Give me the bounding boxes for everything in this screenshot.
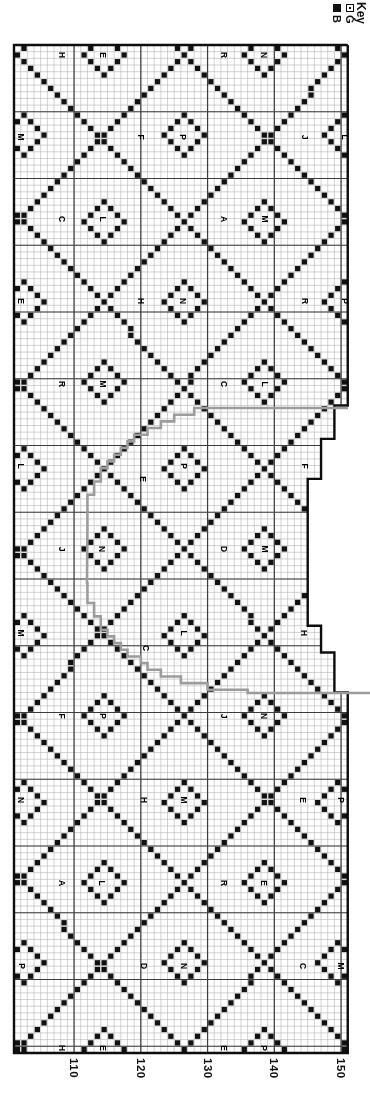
motif-color-letter-p: P [99,713,107,719]
key-title: Key [354,2,368,24]
motif-color-letter-p: P [260,1045,268,1051]
ground-color-letter-j: J [301,135,309,140]
ground-color-letter-h: H [140,797,148,803]
ground-color-letter-a: A [58,880,66,886]
ground-color-letter-r: R [58,381,66,387]
motif-color-letter-l: L [98,880,106,885]
row-number-130: 130 [202,1058,214,1079]
motif-color-letter-n: N [179,298,187,304]
motif-color-letter-e: E [99,52,107,58]
motif-color-letter-l: L [261,381,269,386]
ground-color-letter-d: D [140,963,148,969]
motif-color-letter-p: P [337,797,345,803]
motif-color-letter-n: N [260,713,268,719]
ground-color-letter-f: F [137,134,145,139]
row-number-150: 150 [335,1058,347,1079]
ground-color-letter-e: E [299,797,307,803]
ground-color-letter-c: C [299,963,307,969]
ground-color-letter-j: J [220,714,228,719]
chart-grid-canvas [0,0,370,1098]
ground-color-letter-e: E [220,1045,228,1051]
motif-color-letter-m: M [17,629,25,636]
ground-color-letter-f: F [58,713,66,718]
motif-color-letter-p: P [18,963,26,969]
motif-color-letter-n: N [17,797,25,803]
ground-color-letter-c: C [58,216,66,222]
motif-color-letter-l: L [99,216,107,221]
key-entry-ground: G [346,4,354,24]
row-number-140: 140 [268,1058,280,1079]
row-number-120: 120 [135,1058,147,1079]
ground-color-letter-d: D [220,546,228,552]
ground-color-letter-f: F [301,463,309,468]
key-entry-label: B [333,15,341,23]
ground-color-letter-h: H [137,298,145,304]
ground-color-letter-c: C [142,645,150,651]
motif-color-letter-l: L [180,630,188,635]
motif-color-letter-m: M [17,133,25,140]
motif-color-letter-p: P [341,298,349,304]
motif-color-letter-m: M [337,962,345,969]
motif-color-letter-m: M [99,380,107,387]
motif-color-letter-n: N [180,963,188,969]
ground-color-letter-j: J [58,547,66,552]
motif-color-letter-m: M [261,545,269,552]
ground-color-letter-h: H [58,1045,66,1051]
motif-color-letter-n: N [98,546,106,552]
pattern-stitch-icon [333,4,341,12]
motif-color-letter-e: E [99,1045,107,1051]
ground-stitch-icon [346,4,354,12]
key-entry-pattern: B [333,4,341,23]
ground-color-letter-e: E [139,476,147,482]
ground-color-letter-r: R [220,880,228,886]
motif-color-letter-p: P [180,463,188,469]
ground-color-letter-r: R [220,52,228,58]
ground-color-letter-h: H [58,52,66,58]
motif-color-letter-m: M [180,796,188,803]
ground-color-letter-r: R [301,298,309,304]
key-entry-label: G [346,15,354,24]
knitting-chart-page: Key G B HERNMFPJLCLAMEHNRPRMCLLEPFJNDMMC… [0,0,370,1098]
ground-color-letter-h: H [300,630,308,636]
ground-color-letter-c: C [220,381,228,387]
motif-color-letter-e: E [260,880,268,886]
ground-color-letter-a: A [220,216,228,222]
motif-color-letter-p: P [179,134,187,140]
motif-color-letter-e: E [17,298,25,304]
row-number-110: 110 [68,1058,80,1078]
motif-color-letter-l: L [341,134,349,139]
motif-color-letter-l: L [17,463,25,468]
motif-color-letter-m: M [261,215,269,222]
motif-color-letter-n: N [260,52,268,58]
